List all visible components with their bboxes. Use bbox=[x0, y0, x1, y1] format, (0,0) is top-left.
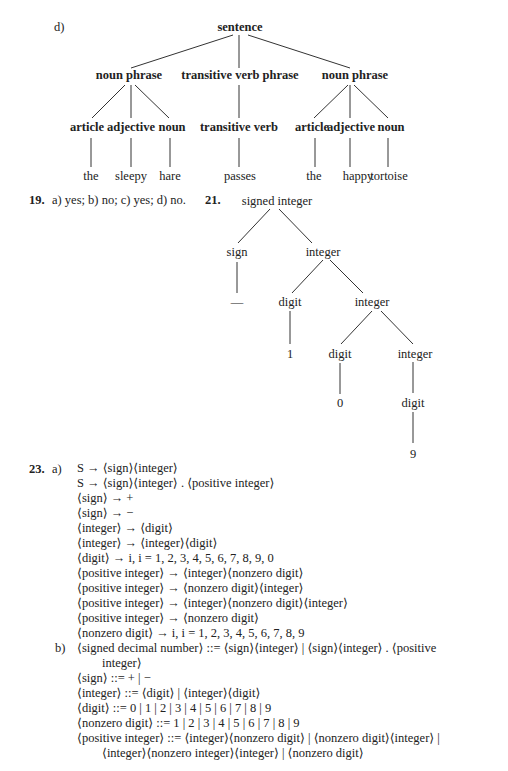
exercise-23-number: 23. bbox=[29, 462, 45, 476]
tree-node-noun-phrase: noun phrase bbox=[96, 68, 162, 82]
bnf-rule: ⟨sign⟩ ::= + | − bbox=[77, 671, 151, 686]
bnf-rule: ⟨digit⟩ ::= 0 | 1 | 2 | 3 | 4 | 5 | 6 | … bbox=[77, 701, 271, 716]
grammar-rule: ⟨integer⟩ → ⟨digit⟩ bbox=[77, 521, 173, 536]
tree-node-article: article bbox=[295, 120, 329, 134]
tree-leaf: happy bbox=[343, 169, 374, 183]
tree-node-digit: digit bbox=[279, 295, 302, 309]
tree-node-integer: integer bbox=[306, 245, 341, 259]
bnf-rule-continuation: ⟨integer⟩⟨nonzero integer⟩⟨integer⟩ | ⟨n… bbox=[102, 746, 364, 761]
grammar-rule: ⟨sign⟩ → + bbox=[77, 491, 133, 506]
tree-node-transitive-verb-phrase: transitive verb phrase bbox=[181, 68, 298, 82]
grammar-rule: ⟨integer⟩ → ⟨integer⟩⟨digit⟩ bbox=[77, 536, 217, 551]
tree-node-digit: digit bbox=[402, 396, 425, 410]
tree-leaf-0: 0 bbox=[337, 396, 343, 410]
bnf-rule: ⟨positive integer⟩ ::= ⟨integer⟩⟨nonzero… bbox=[77, 731, 440, 746]
tree-leaf-9: 9 bbox=[410, 447, 416, 461]
grammar-rule: S → ⟨sign⟩⟨integer⟩ . ⟨positive integer⟩ bbox=[77, 476, 274, 491]
exercise-19-answer: a) yes; b) no; c) yes; d) no. bbox=[52, 193, 186, 207]
bnf-rule: ⟨integer⟩ ::= ⟨digit⟩ | ⟨integer⟩⟨digit⟩ bbox=[77, 686, 260, 701]
tree-node-transitive-verb: transitive verb bbox=[200, 120, 278, 134]
tree-leaf: sleepy bbox=[115, 169, 147, 183]
bnf-rule-continuation: integer⟩ bbox=[102, 656, 142, 671]
tree-node-noun: noun bbox=[377, 120, 404, 134]
grammar-rule: ⟨positive integer⟩ → ⟨integer⟩⟨nonzero d… bbox=[77, 596, 348, 611]
tree-node-adjective: adjective bbox=[327, 120, 375, 134]
part-a-label: a) bbox=[52, 462, 62, 476]
exercise-19-number: 19. bbox=[29, 193, 45, 207]
part-b-label: b) bbox=[55, 641, 65, 655]
tree-node-noun-phrase: noun phrase bbox=[322, 68, 388, 82]
tree-node-adjective: adjective bbox=[107, 120, 155, 134]
tree-leaf: passes bbox=[224, 169, 256, 183]
tree-leaf: tortoise bbox=[370, 169, 408, 183]
exercise-21-number: 21. bbox=[205, 193, 221, 207]
grammar-rule: ⟨nonzero digit⟩ → i, i = 1, 2, 3, 4, 5, … bbox=[77, 626, 305, 641]
grammar-rule: S → ⟨sign⟩⟨integer⟩ bbox=[77, 461, 178, 476]
tree-leaf: the bbox=[83, 169, 98, 183]
bnf-rule: ⟨nonzero digit⟩ ::= 1 | 2 | 3 | 4 | 5 | … bbox=[77, 716, 300, 731]
bnf-rule: ⟨signed decimal number⟩ ::= ⟨sign⟩⟨integ… bbox=[77, 641, 436, 656]
grammar-rule: ⟨positive integer⟩ → ⟨nonzero digit⟩ bbox=[77, 611, 259, 626]
grammar-rule: ⟨sign⟩ → − bbox=[77, 506, 133, 521]
tree-leaf-1: 1 bbox=[287, 347, 293, 361]
part-d-label: d) bbox=[54, 20, 64, 34]
tree-node-article: article bbox=[70, 120, 104, 134]
tree-node-signed-integer: signed integer bbox=[242, 194, 312, 208]
tree-leaf: hare bbox=[159, 169, 181, 183]
tree-node-integer: integer bbox=[355, 295, 390, 309]
grammar-rule: ⟨positive integer⟩ → ⟨integer⟩⟨nonzero d… bbox=[77, 566, 303, 581]
grammar-rule: ⟨positive integer⟩ → ⟨nonzero digit⟩⟨int… bbox=[77, 581, 303, 596]
tree-node-noun: noun bbox=[158, 120, 185, 134]
tree-node-sign: sign bbox=[227, 245, 248, 259]
tree-leaf-minus: — bbox=[231, 295, 244, 309]
tree-node-digit: digit bbox=[329, 347, 352, 361]
tree-leaf: the bbox=[306, 169, 321, 183]
tree-node-sentence: sentence bbox=[217, 20, 262, 34]
tree-node-integer: integer bbox=[398, 347, 433, 361]
grammar-rule: ⟨digit⟩ → i, i = 1, 2, 3, 4, 5, 6, 7, 8,… bbox=[77, 551, 274, 566]
